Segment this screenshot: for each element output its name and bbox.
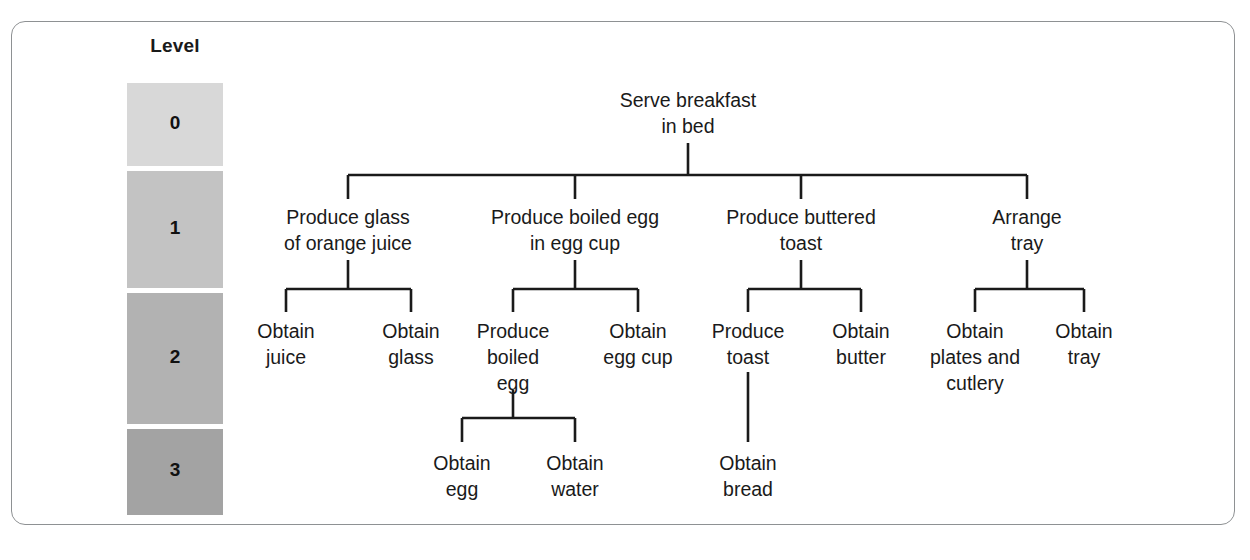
- node-obtain-water: Obtain water: [546, 452, 603, 500]
- node-l3-obtain-bread-line2: bread: [723, 478, 773, 500]
- node-produce-boiled-egg: Produce boiled egg: [477, 320, 550, 394]
- node-l1-toast-line2: toast: [780, 232, 823, 254]
- node-produce-toast: Produce toast: [712, 320, 785, 368]
- node-l2-obtain-tray-line1: Obtain: [1055, 320, 1112, 342]
- connector-boiled-egg-subtree: [462, 390, 575, 442]
- node-l2-obtain-glass-line2: glass: [388, 346, 434, 368]
- node-arrange-tray: Arrange tray: [992, 206, 1061, 254]
- node-obtain-egg-cup: Obtain egg cup: [603, 320, 673, 368]
- node-root-line1: Serve breakfast: [620, 89, 757, 111]
- node-produce-glass-of-orange-juice: Produce glass of orange juice: [284, 206, 412, 254]
- node-l2-obtain-plates-line2: plates and: [930, 346, 1020, 368]
- node-obtain-bread: Obtain bread: [719, 452, 776, 500]
- node-l3-obtain-egg-line1: Obtain: [433, 452, 490, 474]
- node-obtain-tray: Obtain tray: [1055, 320, 1112, 368]
- node-obtain-egg: Obtain egg: [433, 452, 490, 500]
- node-l3-obtain-water-line1: Obtain: [546, 452, 603, 474]
- node-l2-obtain-eggcup-line2: egg cup: [603, 346, 673, 368]
- node-obtain-butter: Obtain butter: [832, 320, 889, 368]
- connector-root-to-level1: [348, 143, 1027, 199]
- node-l1-juice-line2: of orange juice: [284, 232, 412, 254]
- connector-juice-subtree: [286, 260, 411, 312]
- node-l3-obtain-egg-line2: egg: [446, 478, 479, 500]
- node-l1-tray-line1: Arrange: [992, 206, 1061, 228]
- node-l2-obtain-glass-line1: Obtain: [382, 320, 439, 342]
- node-l3-obtain-bread-line1: Obtain: [719, 452, 776, 474]
- node-obtain-juice: Obtain juice: [257, 320, 314, 368]
- node-l1-toast-line1: Produce buttered: [726, 206, 876, 228]
- node-l2-obtain-butter-line1: Obtain: [832, 320, 889, 342]
- node-l2-obtain-butter-line2: butter: [836, 346, 886, 368]
- connector-tray-subtree: [975, 260, 1084, 312]
- node-produce-boiled-egg-in-egg-cup: Produce boiled egg in egg cup: [491, 206, 659, 254]
- node-l2-obtain-juice-line1: Obtain: [257, 320, 314, 342]
- node-l1-egg-line2: in egg cup: [530, 232, 620, 254]
- node-l2-obtain-tray-line2: tray: [1068, 346, 1101, 368]
- connector-toast-subtree: [748, 260, 861, 312]
- node-l2-produce-toast-line1: Produce: [712, 320, 785, 342]
- node-obtain-plates-and-cutlery: Obtain plates and cutlery: [930, 320, 1020, 394]
- node-l2-produce-boiled-line2: boiled: [487, 346, 539, 368]
- node-l1-egg-line1: Produce boiled egg: [491, 206, 659, 228]
- task-tree: Serve breakfast in bed Produce glass of …: [0, 0, 1250, 560]
- node-produce-buttered-toast: Produce buttered toast: [726, 206, 876, 254]
- node-l2-produce-boiled-line1: Produce: [477, 320, 550, 342]
- node-root-line2: in bed: [661, 115, 714, 137]
- node-serve-breakfast-in-bed: Serve breakfast in bed: [620, 89, 757, 137]
- node-obtain-glass: Obtain glass: [382, 320, 439, 368]
- connector-egg-subtree: [513, 260, 638, 312]
- node-l2-obtain-plates-line1: Obtain: [946, 320, 1003, 342]
- node-l2-produce-boiled-line3: egg: [497, 372, 530, 394]
- node-l1-juice-line1: Produce glass: [286, 206, 410, 228]
- node-l3-obtain-water-line2: water: [550, 478, 599, 500]
- node-l2-produce-toast-line2: toast: [727, 346, 770, 368]
- node-l2-obtain-eggcup-line1: Obtain: [609, 320, 666, 342]
- diagram-screenshot: Level 0 1 2 3: [0, 0, 1250, 560]
- node-l2-obtain-plates-line3: cutlery: [946, 372, 1004, 394]
- node-l2-obtain-juice-line2: juice: [265, 346, 306, 368]
- node-l1-tray-line2: tray: [1011, 232, 1044, 254]
